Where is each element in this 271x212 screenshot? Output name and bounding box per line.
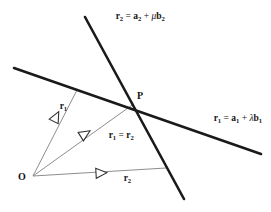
line1-b-sub: 1 — [259, 117, 262, 124]
vector-r2-sub: 2 — [128, 177, 132, 184]
line2-plus: + — [141, 11, 151, 21]
veq-r2-sub: 2 — [130, 134, 134, 141]
line2-equals: = — [123, 11, 133, 21]
line2-b-sub: 2 — [161, 15, 165, 22]
vector-line-intersection-diagram: r2 = a2 + μb2 r1 = a1 + λb1 P O r1 r2 r1… — [0, 0, 271, 212]
vector-r1-sub: 1 — [64, 105, 67, 112]
line1-equals: = — [221, 113, 231, 123]
point-p-label: P — [137, 90, 143, 101]
veq-equals: = — [116, 130, 126, 140]
line1-plus: + — [239, 113, 249, 123]
diagram-canvas: r2 = a2 + μb2 r1 = a1 + λb1 P O r1 r2 r1… — [0, 0, 271, 212]
origin-o-label: O — [18, 171, 26, 182]
